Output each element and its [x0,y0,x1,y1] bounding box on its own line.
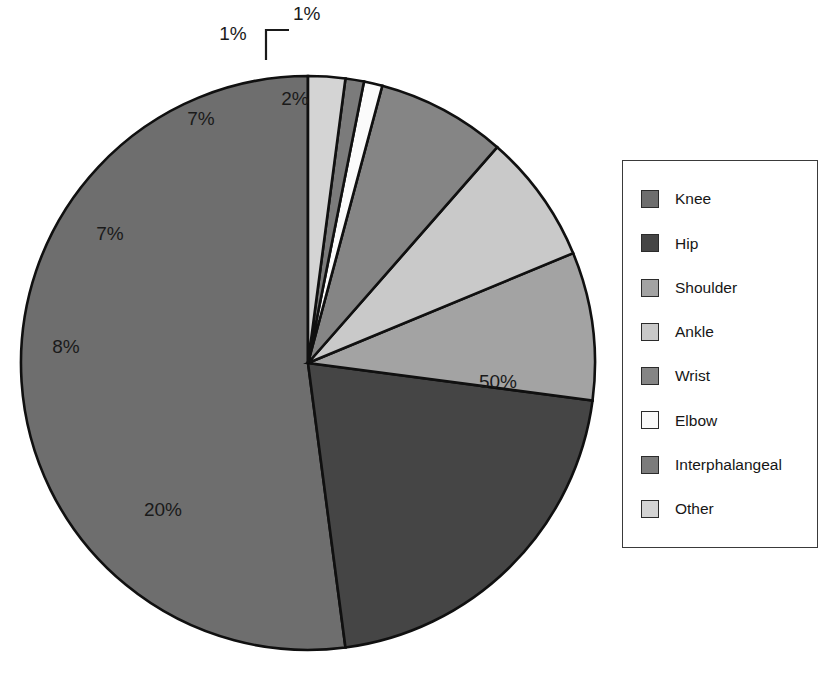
pie-label-knee: 50% [479,371,517,392]
pie-slice-hip[interactable] [308,363,593,648]
legend-swatch-icon [641,190,659,208]
legend-item-label: Other [675,501,714,517]
legend-swatch-icon [641,500,659,518]
legend-swatch-icon [641,456,659,474]
legend-item-label: Wrist [675,368,710,384]
legend-item-shoulder[interactable]: Shoulder [623,267,817,309]
legend-swatch-icon [641,323,659,341]
legend-swatch-icon [641,411,659,429]
leader-line-interphalangeal [266,30,289,60]
pie-label-wrist: 7% [187,108,215,129]
legend-item-label: Shoulder [675,280,737,296]
legend-item-hip[interactable]: Hip [623,222,817,264]
legend-item-knee[interactable]: Knee [623,178,817,220]
pie-svg: 50%20%8%7%7%1%1%2% [0,0,616,674]
pie-slice-knee[interactable] [21,76,345,650]
legend-item-label: Ankle [675,324,714,340]
pie-label-interphalangeal: 1% [293,3,321,24]
legend-item-wrist[interactable]: Wrist [623,355,817,397]
pie-chart-figure: 50%20%8%7%7%1%1%2% KneeHipShoulderAnkleW… [0,0,832,674]
legend-swatch-icon [641,279,659,297]
pie-label-shoulder: 8% [52,336,80,357]
pie-slice-group [21,76,595,650]
legend-item-elbow[interactable]: Elbow [623,399,817,441]
legend-swatch-icon [641,234,659,252]
pie-plot-area: 50%20%8%7%7%1%1%2% [0,0,616,674]
pie-label-elbow: 1% [219,23,247,44]
pie-label-ankle: 7% [96,223,124,244]
legend-item-other[interactable]: Other [623,488,817,530]
legend-item-label: Interphalangeal [675,457,782,473]
leader-line-group [266,30,289,60]
pie-label-other: 2% [281,88,309,109]
legend-swatch-icon [641,367,659,385]
chart-legend: KneeHipShoulderAnkleWristElbowInterphala… [622,160,818,548]
legend-item-label: Elbow [675,413,717,429]
legend-item-interphalangeal[interactable]: Interphalangeal [623,444,817,486]
pie-label-hip: 20% [144,499,182,520]
legend-item-ankle[interactable]: Ankle [623,311,817,353]
legend-item-label: Hip [675,236,698,252]
legend-item-label: Knee [675,191,711,207]
